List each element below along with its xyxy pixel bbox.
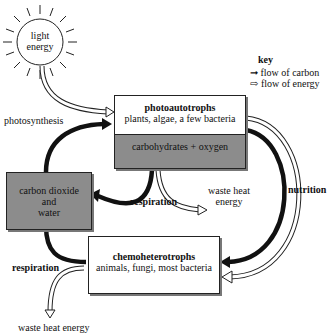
photoautotrophs-subtitle: plants, algae, a few bacteria	[115, 113, 245, 124]
waste-heat-label: waste heat energy	[208, 185, 250, 207]
co2-line2: and	[7, 196, 91, 207]
sun-label-line1: light	[23, 30, 57, 41]
key-carbon: ➞ flow of carbon	[250, 67, 319, 78]
key-energy: ⇨ flow of energy	[250, 78, 320, 89]
chemoheterotrophs-subtitle: animals, fungi, most bacteria	[89, 262, 219, 273]
photoautotrophs-title: photoautotrophs	[115, 102, 245, 113]
chemoheterotrophs-title: chemoheterotrophs	[89, 251, 219, 262]
photosynthesis-label: photosynthesis	[4, 115, 63, 126]
co2-line1: carbon dioxide	[7, 185, 91, 196]
sun-label-line2: energy	[23, 41, 57, 52]
photoautotrophs-box: photoautotrophs plants, algae, a few bac…	[114, 95, 246, 169]
respiration-bottom-label: respiration	[12, 262, 59, 273]
nutrition-label: nutrition	[288, 184, 326, 195]
respiration-top-label: respiration	[130, 196, 177, 207]
co2-line3: water	[7, 207, 91, 218]
chemoheterotrophs-box: chemoheterotrophs animals, fungi, most b…	[88, 236, 220, 294]
co2-water-box: carbon dioxide and water	[6, 172, 92, 230]
photoautotrophs-product: carbohydrates + oxygen	[115, 134, 245, 168]
waste-heat-line1: waste heat	[208, 185, 250, 196]
key-title: key	[258, 54, 273, 65]
waste-heat-line2: energy	[208, 196, 250, 207]
bottom-waste-heat-label: waste heat energy	[18, 322, 89, 333]
sun-label: light energy	[23, 30, 57, 52]
